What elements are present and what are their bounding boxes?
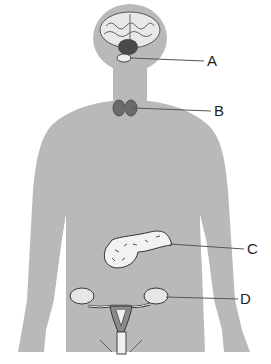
label-a: A xyxy=(207,53,217,68)
cervix xyxy=(117,332,126,354)
label-c: C xyxy=(247,241,258,256)
endocrine-diagram xyxy=(0,0,271,364)
right-ovary xyxy=(144,288,168,304)
hypothalamus xyxy=(118,39,138,55)
label-d: D xyxy=(240,291,251,306)
pituitary-gland xyxy=(117,54,131,62)
label-b: B xyxy=(214,103,224,118)
left-ovary xyxy=(70,288,94,304)
